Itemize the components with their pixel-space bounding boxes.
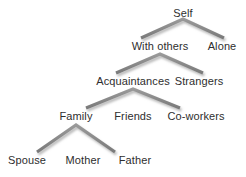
node-with-others: With others — [132, 40, 189, 52]
node-spouse: Spouse — [8, 154, 46, 166]
connector-layer — [0, 0, 246, 177]
node-self: Self — [173, 7, 192, 19]
node-strangers: Strangers — [175, 75, 224, 87]
node-alone: Alone — [208, 40, 237, 52]
tree-diagram: Self With others Alone Acquaintances Str… — [0, 0, 246, 177]
node-family: Family — [60, 110, 93, 122]
node-mother: Mother — [66, 154, 101, 166]
node-acquaintances: Acquaintances — [96, 75, 169, 87]
node-friends: Friends — [114, 110, 151, 122]
node-co-workers: Co-workers — [167, 110, 224, 122]
connector-self-to-children — [141, 19, 224, 38]
node-father: Father — [119, 154, 151, 166]
connector-with-others-to-children — [116, 54, 203, 73]
